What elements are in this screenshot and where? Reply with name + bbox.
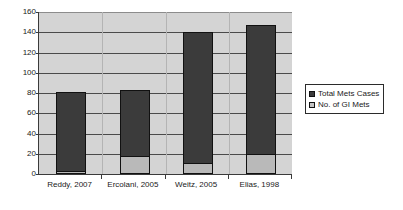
y-tick-label: 20 xyxy=(2,150,36,158)
legend-item-no-of-gi-mets[interactable]: No. of GI Mets xyxy=(309,99,379,110)
legend-label: Total Mets Cases xyxy=(318,89,379,98)
bar-total-mets-cases[interactable] xyxy=(56,92,86,174)
bar-group-elias-1998[interactable] xyxy=(246,12,276,174)
bar-group-reddy-2007[interactable] xyxy=(56,12,86,174)
bar-series-container xyxy=(39,12,292,174)
bar-no-of-gi-mets[interactable] xyxy=(120,156,150,174)
legend-label: No. of GI Mets xyxy=(318,100,370,109)
x-tick-label-weitz-2005: Weitz, 2005 xyxy=(165,180,228,189)
x-tick-label-elias-1998: Elias, 1998 xyxy=(228,180,291,189)
x-tick-mark xyxy=(291,175,292,179)
x-tick-label-reddy-2007: Reddy, 2007 xyxy=(38,180,101,189)
chart-legend: Total Mets Cases No. of GI Mets xyxy=(305,84,384,114)
plot-area xyxy=(38,12,292,175)
legend-swatch-dark-square-icon xyxy=(309,91,315,97)
y-tick-label: 140 xyxy=(2,28,36,36)
bar-chart: 160 140 120 100 80 60 40 20 0 xyxy=(0,0,403,210)
y-tick-label: 120 xyxy=(2,49,36,57)
y-axis: 160 140 120 100 80 60 40 20 0 xyxy=(0,12,36,174)
bar-group-weitz-2005[interactable] xyxy=(183,12,213,174)
x-axis: Reddy, 2007 Ercolani, 2005 Weitz, 2005 E… xyxy=(38,180,291,194)
x-tick-label-ercolani-2005: Ercolani, 2005 xyxy=(101,180,164,189)
bar-total-mets-cases[interactable] xyxy=(183,32,213,174)
y-tick-label: 100 xyxy=(2,69,36,77)
y-tick-label: 40 xyxy=(2,130,36,138)
y-tick-label: 60 xyxy=(2,109,36,117)
legend-item-total-mets-cases[interactable]: Total Mets Cases xyxy=(309,88,379,99)
bar-total-mets-cases[interactable] xyxy=(246,25,276,174)
y-tick-label: 0 xyxy=(2,170,36,178)
x-tick-mark xyxy=(228,175,229,179)
bar-no-of-gi-mets[interactable] xyxy=(56,171,86,174)
bar-group-ercolani-2005[interactable] xyxy=(120,12,150,174)
x-tick-mark xyxy=(101,175,102,179)
y-tick-label: 80 xyxy=(2,89,36,97)
legend-swatch-light-square-icon xyxy=(309,102,315,108)
y-tick-label: 160 xyxy=(2,8,36,16)
bar-no-of-gi-mets[interactable] xyxy=(183,163,213,174)
bar-no-of-gi-mets[interactable] xyxy=(246,154,276,174)
x-tick-mark xyxy=(165,175,166,179)
